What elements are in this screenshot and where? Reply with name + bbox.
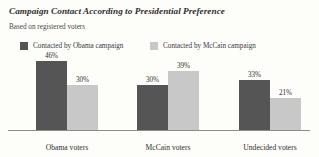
x-axis-baseline — [8, 130, 310, 131]
chart-subtitle: Based on registered voters — [9, 23, 85, 31]
bar-value-label: 46% — [36, 52, 67, 60]
bar-wrap-undecided-voters-obama: 33% — [239, 55, 270, 130]
bar-wrap-obama-voters-obama: 46% — [36, 55, 67, 130]
bar-wrap-mccain-voters-obama: 30% — [137, 55, 168, 130]
bar-value-label: 33% — [239, 71, 270, 79]
bar-undecided-voters-obama — [239, 80, 270, 130]
legend-item-obama: Contacted by Obama campaign — [20, 41, 123, 51]
bar-value-label: 30% — [67, 76, 98, 84]
bar-value-label: 39% — [168, 62, 199, 70]
bar-obama-voters-obama — [36, 61, 67, 130]
legend-swatch-icon-mccain — [150, 42, 158, 50]
bar-obama-voters-mccain — [67, 85, 98, 130]
bar-mccain-voters-mccain — [168, 71, 199, 130]
bar-wrap-undecided-voters-mccain: 21% — [270, 55, 301, 130]
legend-label-obama: Contacted by Obama campaign — [33, 41, 123, 51]
bar-wrap-mccain-voters-mccain: 39% — [168, 55, 199, 130]
plot-area: 46% 30% 30% 39% 33% — [0, 55, 319, 157]
x-axis-label-undecided-voters: Undecided voters — [203, 143, 319, 152]
chart-container: Campaign Contact According to Presidenti… — [0, 0, 319, 157]
chart-title: Campaign Contact According to Presidenti… — [9, 6, 225, 16]
legend-item-mccain: Contacted by McCain campaign — [150, 41, 256, 51]
bar-group-obama-voters: 46% 30% — [36, 55, 98, 130]
legend-swatch-icon-obama — [20, 42, 28, 50]
bar-wrap-obama-voters-mccain: 30% — [67, 55, 98, 130]
bar-value-label: 30% — [137, 76, 168, 84]
bar-group-undecided-voters: 33% 21% — [239, 55, 301, 130]
bar-mccain-voters-obama — [137, 85, 168, 130]
bar-undecided-voters-mccain — [270, 98, 301, 130]
legend-label-mccain: Contacted by McCain campaign — [163, 41, 256, 51]
bar-group-mccain-voters: 30% 39% — [137, 55, 199, 130]
bar-value-label: 21% — [270, 89, 301, 97]
